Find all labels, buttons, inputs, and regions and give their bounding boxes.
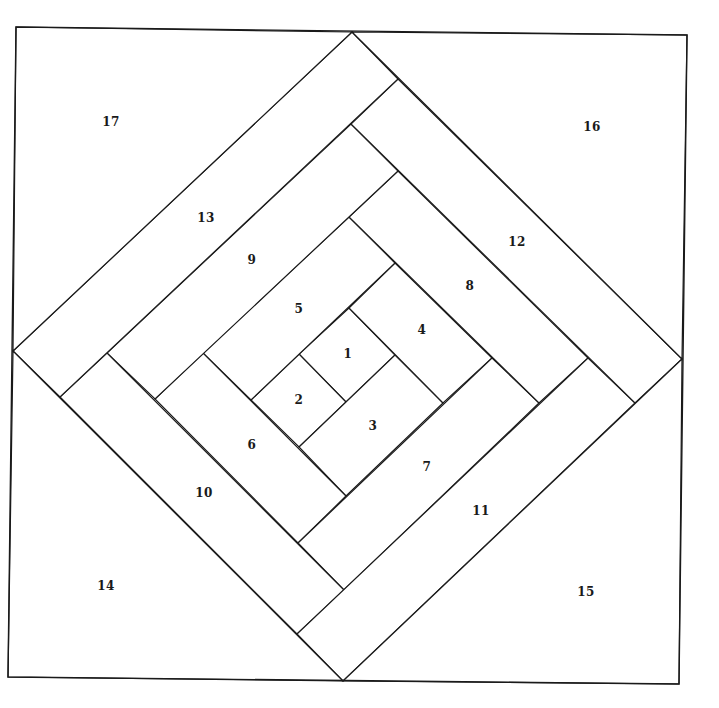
- piece-label-6: 6: [248, 438, 257, 452]
- piece-label-15: 15: [577, 585, 595, 599]
- piece-label-8: 8: [466, 279, 475, 293]
- piece-label-9: 9: [248, 253, 257, 267]
- piece-label-7: 7: [423, 460, 432, 474]
- piece-label-4: 4: [418, 323, 427, 337]
- piece-label-13: 13: [197, 211, 215, 225]
- piece-label-2: 2: [295, 393, 304, 407]
- piece-label-14: 14: [97, 579, 115, 593]
- piece-label-3: 3: [369, 419, 378, 433]
- piece-label-11: 11: [472, 504, 490, 518]
- piece-label-16: 16: [583, 120, 601, 134]
- quilt-block-diagram: [0, 0, 719, 708]
- piece-label-17: 17: [102, 115, 120, 129]
- piece-label-12: 12: [508, 235, 526, 249]
- piece-label-5: 5: [295, 302, 304, 316]
- piece-label-1: 1: [344, 347, 353, 361]
- piece-label-10: 10: [195, 486, 213, 500]
